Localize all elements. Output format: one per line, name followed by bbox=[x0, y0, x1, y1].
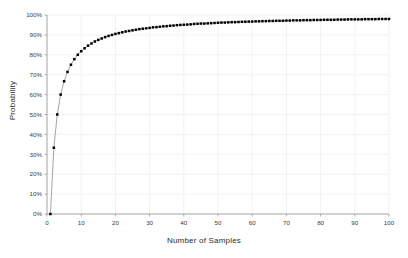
svg-text:80%: 80% bbox=[30, 51, 43, 58]
y-axis-title: Probability bbox=[8, 61, 17, 141]
svg-text:10%: 10% bbox=[30, 190, 43, 197]
svg-text:60: 60 bbox=[249, 219, 256, 226]
svg-text:20: 20 bbox=[112, 219, 119, 226]
svg-text:40%: 40% bbox=[30, 131, 43, 138]
svg-text:50%: 50% bbox=[30, 111, 43, 118]
svg-text:30: 30 bbox=[146, 219, 153, 226]
svg-text:10: 10 bbox=[78, 219, 85, 226]
svg-text:0%: 0% bbox=[33, 210, 42, 217]
svg-text:90: 90 bbox=[351, 219, 358, 226]
svg-text:0: 0 bbox=[45, 219, 49, 226]
x-axis-title: Number of Samples bbox=[0, 236, 408, 245]
svg-text:60%: 60% bbox=[30, 91, 43, 98]
svg-text:50: 50 bbox=[215, 219, 222, 226]
svg-text:20%: 20% bbox=[30, 170, 43, 177]
svg-text:90%: 90% bbox=[30, 31, 43, 38]
plot-canvas: 0%10%20%30%40%50%60%70%80%90%100% 010203… bbox=[0, 0, 408, 258]
svg-text:40: 40 bbox=[180, 219, 187, 226]
svg-text:70: 70 bbox=[283, 219, 290, 226]
svg-text:30%: 30% bbox=[30, 151, 43, 158]
chart-figure: Probability Number of Samples 0%10%20%30… bbox=[0, 0, 408, 258]
svg-text:70%: 70% bbox=[30, 71, 43, 78]
svg-text:100%: 100% bbox=[26, 11, 42, 18]
svg-text:100: 100 bbox=[384, 219, 395, 226]
svg-text:80: 80 bbox=[317, 219, 324, 226]
